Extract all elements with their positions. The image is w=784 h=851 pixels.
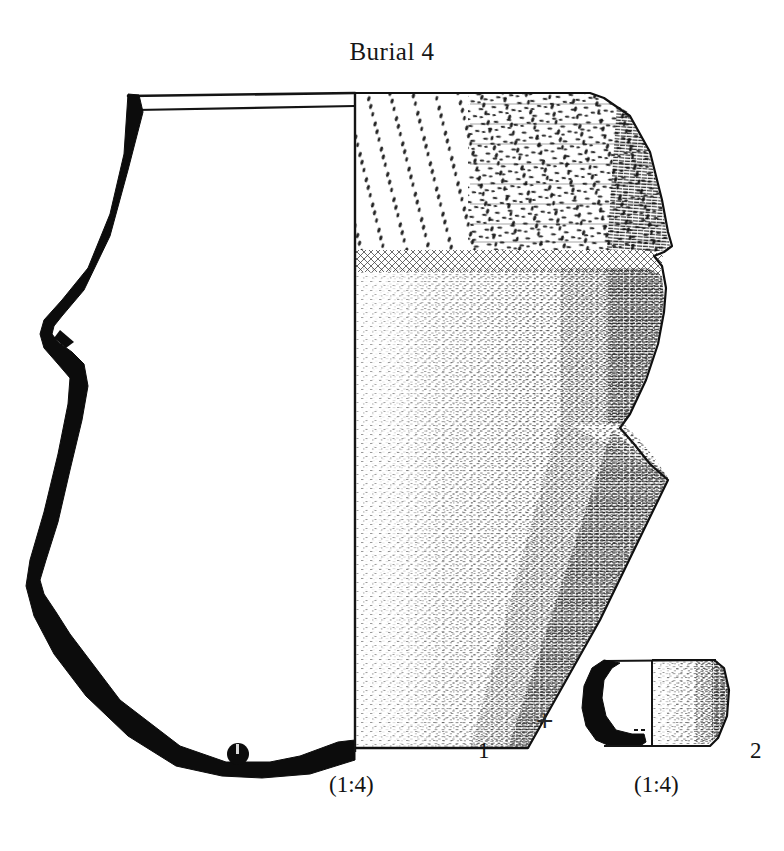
vessel-2-scale-label: (1:4)	[634, 772, 679, 798]
vessel-1-scale-label: (1:4)	[329, 772, 374, 798]
vessel-2-drawing	[582, 650, 755, 760]
vessel-2-exterior-texture	[645, 650, 755, 760]
figure-plate: Burial 4	[0, 0, 784, 851]
vessel-2-section-profile	[582, 660, 646, 746]
vessel-1-rim-lines	[128, 93, 355, 110]
plus-icon: +	[536, 706, 554, 736]
vessel-1-lower-body-texture	[350, 418, 690, 758]
vessel-1-upper-body-texture	[350, 240, 690, 440]
vessel-2-number-label: 2	[750, 738, 762, 764]
pottery-illustration-canvas	[0, 0, 784, 851]
vessel-1-section-profile	[26, 94, 355, 778]
vessel-1-neck-decoration	[350, 88, 696, 263]
vessel-1-number-label: 1	[478, 738, 490, 764]
